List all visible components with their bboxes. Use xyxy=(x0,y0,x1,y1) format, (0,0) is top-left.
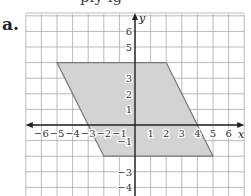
x-tick-label: −6 xyxy=(34,128,49,139)
y-tick-label: 1 xyxy=(126,104,132,115)
x-axis-label: x xyxy=(238,128,245,141)
x-tick-label: 1 xyxy=(147,128,153,139)
y-tick-label: 6 xyxy=(126,26,132,37)
y-axis-label: y xyxy=(138,12,146,25)
x-tick-label: 6 xyxy=(225,128,231,139)
y-axis-arrow-icon xyxy=(132,13,138,20)
x-tick-label: −5 xyxy=(50,128,65,139)
coordinate-plane: yx−6−5−4−3−2−112345665321−1−3−4 xyxy=(0,0,251,196)
x-tick-label: 4 xyxy=(194,128,200,139)
y-tick-label: 2 xyxy=(126,89,132,100)
x-tick-label: 2 xyxy=(163,128,169,139)
x-tick-label: 5 xyxy=(210,128,216,139)
y-tick-label: −1 xyxy=(117,136,132,147)
x-tick-label: −4 xyxy=(65,128,80,139)
y-tick-label: −3 xyxy=(117,167,132,178)
x-tick-label: −2 xyxy=(96,128,111,139)
y-tick-label: 3 xyxy=(126,73,132,84)
x-tick-label: −3 xyxy=(81,128,96,139)
y-tick-label: 5 xyxy=(126,42,132,53)
x-axis-left-arrow-icon xyxy=(26,122,33,128)
x-tick-label: 3 xyxy=(179,128,185,139)
y-tick-label: −4 xyxy=(117,182,132,193)
